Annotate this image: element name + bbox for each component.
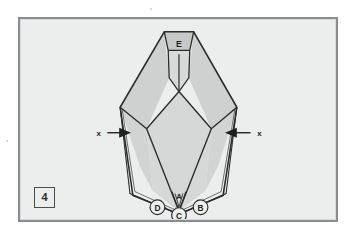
technical-drawing: x x E A D B C [20, 19, 336, 220]
scan-speck [6, 140, 8, 142]
page-root: x x E A D B C 4 [0, 0, 355, 238]
label-A: A [176, 192, 182, 201]
figure-number-box: 4 [34, 187, 55, 208]
dimension-right-label: x [257, 129, 262, 138]
dimension-left-label: x [96, 129, 101, 138]
figure-number-label: 4 [41, 192, 47, 203]
scan-speck [150, 8, 152, 10]
figure-frame: x x E A D B C 4 [18, 17, 338, 222]
label-E: E [176, 39, 182, 49]
callout-label-C: C [176, 211, 182, 220]
callout-label-D: D [154, 203, 160, 213]
callout-label-B: B [198, 203, 204, 213]
